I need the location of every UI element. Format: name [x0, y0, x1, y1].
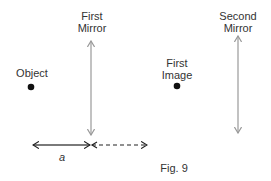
first-mirror-label: First Mirror — [70, 10, 114, 34]
distance-label: a — [56, 151, 68, 163]
first-image-line2: Image — [155, 69, 199, 81]
first-image-label: First Image — [155, 57, 199, 81]
object-dot — [28, 84, 35, 91]
first-mirror-line1: First — [70, 10, 114, 22]
first-image-dot — [174, 83, 181, 90]
first-image-line1: First — [155, 57, 199, 69]
figure-caption: Fig. 9 — [156, 162, 192, 174]
distance-dashed-arrow — [92, 142, 147, 148]
first-mirror-line2: Mirror — [70, 22, 114, 34]
second-mirror-line1: Second — [212, 10, 264, 22]
second-mirror-line2: Mirror — [212, 22, 264, 34]
object-label: Object — [10, 67, 54, 79]
second-mirror-label: Second Mirror — [212, 10, 264, 34]
